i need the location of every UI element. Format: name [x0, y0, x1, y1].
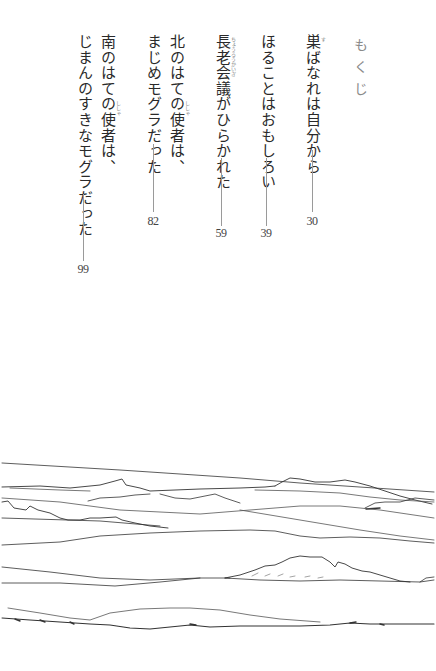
ruby-reading: す — [320, 37, 325, 42]
toc-entry-title[interactable]: ほることはおもしろい — [259, 34, 275, 190]
page-number[interactable]: 82 — [148, 214, 159, 229]
ruby-reading: ちょうろうかいぎ — [230, 37, 235, 77]
leader-line — [312, 150, 313, 212]
page-number[interactable]: 30 — [307, 214, 318, 229]
landscape-illustration — [0, 430, 436, 671]
toc-entry-title-line-2[interactable]: じまんのすきなモグラだった — [76, 34, 92, 237]
leader-line — [221, 158, 222, 226]
page-number[interactable]: 99 — [78, 262, 89, 277]
toc-entry-title-line-1[interactable]: 北のはての使者は、 — [168, 34, 184, 174]
ruby-reading: ししゃ — [184, 101, 189, 116]
toc-heading: もくじ — [350, 38, 370, 104]
toc-entry-title[interactable]: 長老会議がひらかれた — [214, 34, 230, 190]
toc-entry-title-line-1[interactable]: 南のはての使者は、 — [99, 34, 115, 174]
leader-line — [266, 158, 267, 226]
page-number[interactable]: 59 — [216, 226, 227, 241]
page-number[interactable]: 39 — [261, 226, 272, 241]
leader-line — [153, 144, 154, 212]
leader-line — [83, 194, 84, 261]
ruby-reading: ししゃ — [115, 101, 120, 116]
